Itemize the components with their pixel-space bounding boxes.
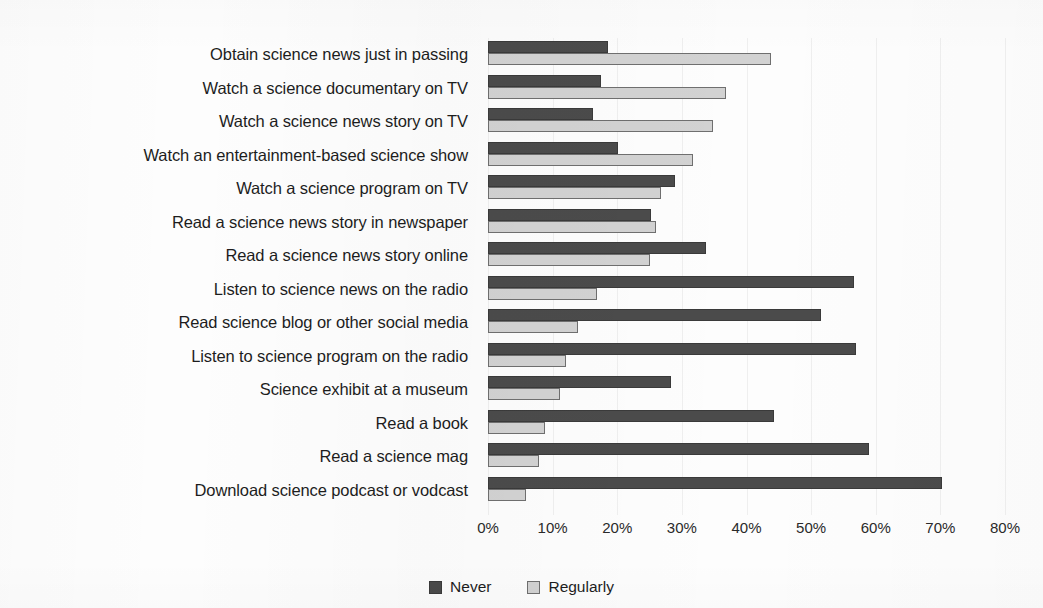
bar-regularly [488,187,661,199]
legend-swatch-icon [429,581,442,594]
category-label: Read a book [0,407,478,441]
bar-group [488,340,1005,374]
bar-regularly [488,53,771,65]
x-tick-label: 50% [796,519,826,536]
x-tick-label: 70% [925,519,955,536]
bar-regularly [488,288,597,300]
plot-area [488,38,1005,507]
bar-group [488,440,1005,474]
category-label: Science exhibit at a museum [0,373,478,407]
bar-regularly [488,321,578,333]
category-label: Read science blog or other social media [0,306,478,340]
bar-regularly [488,254,650,266]
category-label: Watch a science documentary on TV [0,72,478,106]
gridline [1005,38,1006,515]
bar-regularly [488,489,526,501]
bar-never [488,41,608,53]
legend-entry-never[interactable]: Never [429,578,491,596]
bar-group [488,72,1005,106]
legend-entry-regularly[interactable]: Regularly [527,578,613,596]
bar-regularly [488,87,726,99]
category-label: Read a science news story in newspaper [0,206,478,240]
bar-regularly [488,455,539,467]
category-label: Read a science mag [0,440,478,474]
bar-group [488,273,1005,307]
x-tick-label: 30% [667,519,697,536]
bar-never [488,142,618,154]
bar-never [488,242,706,254]
bar-never [488,75,601,87]
legend-swatch-icon [527,581,540,594]
legend-label: Regularly [548,578,613,596]
x-tick-label: 60% [861,519,891,536]
bar-never [488,376,671,388]
category-label: Download science podcast or vodcast [0,474,478,508]
value-axis: 0%10%20%30%40%50%60%70%80% [488,519,1005,543]
bar-never [488,209,651,221]
bar-group [488,105,1005,139]
bar-group [488,38,1005,72]
category-axis: Obtain science news just in passingWatch… [0,38,478,507]
bar-regularly [488,221,656,233]
horizontal-bar-chart: Obtain science news just in passingWatch… [0,0,1043,608]
bar-regularly [488,422,545,434]
bar-group [488,206,1005,240]
category-label: Read a science news story online [0,239,478,273]
category-label: Watch a science program on TV [0,172,478,206]
bar-group [488,306,1005,340]
category-label: Obtain science news just in passing [0,38,478,72]
category-label: Listen to science news on the radio [0,273,478,307]
bar-never [488,477,942,489]
bar-never [488,343,856,355]
bar-never [488,175,675,187]
bar-regularly [488,355,566,367]
chart-legend: NeverRegularly [0,578,1043,596]
bar-regularly [488,388,560,400]
category-label: Watch a science news story on TV [0,105,478,139]
bar-never [488,276,854,288]
legend-label: Never [450,578,491,596]
x-tick-label: 20% [602,519,632,536]
category-label: Watch an entertainment-based science sho… [0,139,478,173]
bar-group [488,474,1005,508]
bar-never [488,108,593,120]
bar-group [488,373,1005,407]
x-tick-label: 80% [990,519,1020,536]
bar-regularly [488,120,713,132]
bar-never [488,309,821,321]
bar-group [488,172,1005,206]
bar-group [488,407,1005,441]
bar-group [488,239,1005,273]
category-label: Listen to science program on the radio [0,340,478,374]
x-tick-label: 40% [731,519,761,536]
bar-never [488,410,774,422]
x-tick-label: 0% [477,519,499,536]
bar-group [488,139,1005,173]
bar-never [488,443,869,455]
bar-regularly [488,154,693,166]
x-tick-label: 10% [538,519,568,536]
